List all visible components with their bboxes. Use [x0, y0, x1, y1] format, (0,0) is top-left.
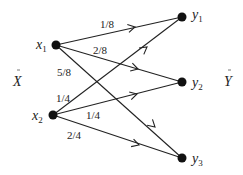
prob-x1-y1: 1/8	[100, 18, 115, 30]
node-x1	[52, 41, 61, 50]
label-x2: x2	[31, 108, 43, 125]
label-y2: y2	[190, 75, 203, 92]
prob-x1-y3: 5/8	[57, 66, 72, 78]
prob-x2-y2: 1/4	[86, 109, 101, 121]
edge-x1-y2	[56, 45, 182, 82]
prob-x1-y2: 2/8	[93, 44, 108, 56]
channel-diagram: x1 x2 y1 y2 y3 X Y 1/8 2/8 5/8 1/4 1/4 2…	[0, 0, 243, 175]
set-label-x: X	[12, 74, 22, 89]
label-x1: x1	[35, 37, 47, 54]
node-x2	[49, 111, 58, 120]
prob-x2-y1: 1/4	[56, 92, 71, 104]
node-y2	[178, 78, 187, 87]
label-y1: y1	[190, 7, 203, 24]
label-y3: y3	[190, 151, 203, 168]
set-label-y: Y	[224, 74, 234, 89]
node-y1	[178, 13, 187, 22]
edge-x2-y2	[53, 82, 182, 115]
prob-x2-y3: 2/4	[67, 129, 82, 141]
edge-x1-y3	[56, 45, 182, 158]
node-y3	[178, 154, 187, 163]
